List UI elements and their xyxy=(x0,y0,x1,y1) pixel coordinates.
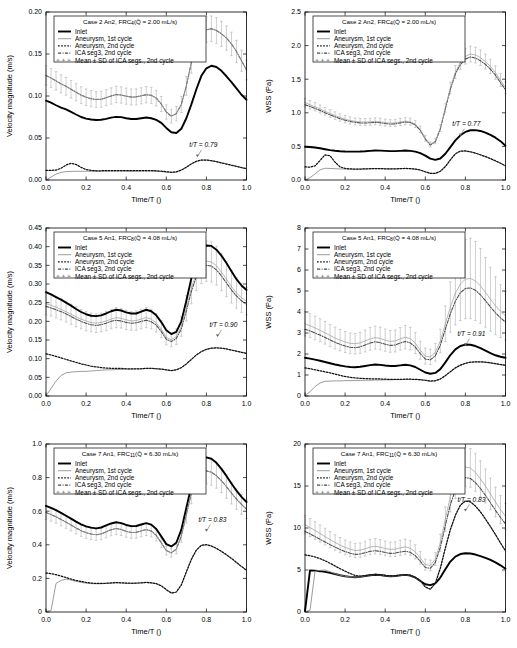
y-tick-label: 0.20 xyxy=(28,8,42,15)
y-tick-label: 0.8 xyxy=(32,474,42,481)
legend: Case 7 An1, FRC11(Q̄ = 6.30 mL/s)InletAn… xyxy=(54,448,206,497)
y-tick-label: 0.0 xyxy=(291,176,301,183)
legend-label: Mean ± SD of ICA segs., 2nd cycle xyxy=(75,489,174,497)
x-axis-title: Time/T () xyxy=(131,195,161,204)
legend-entry: Mean ± SD of ICA segs., 2nd cycle xyxy=(56,489,174,497)
y-tick-label: 0.05 xyxy=(28,374,42,381)
x-axis-title: Time/T () xyxy=(390,195,420,204)
x-tick-label: 0.6 xyxy=(420,184,430,191)
y-tick-label: 2.0 xyxy=(291,42,301,49)
x-tick-label: 0.8 xyxy=(202,400,212,407)
y-tick-label: 4 xyxy=(297,308,301,315)
y-tick-label: 5 xyxy=(297,287,301,294)
y-tick-label: 0.4 xyxy=(32,541,42,548)
y-tick-label: 0 xyxy=(297,608,301,615)
series-line xyxy=(305,151,506,180)
y-tick-label: 0.2 xyxy=(32,575,42,582)
y-tick-label: 0.15 xyxy=(28,336,42,343)
y-tick-label: 0.35 xyxy=(28,262,42,269)
legend-label: Inlet xyxy=(75,28,87,35)
x-tick-label: 0.6 xyxy=(420,400,430,407)
figure-container: 0.00.20.40.60.81.00.000.050.100.150.20Ti… xyxy=(0,0,517,648)
x-tick-label: 0.2 xyxy=(81,616,91,623)
x-tick-label: 0.0 xyxy=(300,400,310,407)
y-tick-label: 0.05 xyxy=(28,134,42,141)
annotation-label: t/T = 0.90 xyxy=(209,321,237,328)
x-tick-label: 1.0 xyxy=(242,616,252,623)
y-tick-label: 1.0 xyxy=(32,440,42,447)
x-tick-label: 0.8 xyxy=(460,184,470,191)
x-tick-label: 1.0 xyxy=(500,616,510,623)
series-line xyxy=(305,362,506,395)
chart-panel-panel-a: 0.00.20.40.60.81.00.000.050.100.150.20Ti… xyxy=(0,0,259,216)
legend-entry: Mean ± SD of ICA segs., 2nd cycle xyxy=(56,57,174,65)
y-tick-label: 1.5 xyxy=(291,76,301,83)
x-axis-title: Time/T () xyxy=(131,627,161,636)
legend-label: Inlet xyxy=(334,460,346,467)
y-tick-label: 2.5 xyxy=(291,8,301,15)
y-tick-label: 0.10 xyxy=(28,92,42,99)
y-tick-label: 2 xyxy=(297,350,301,357)
x-tick-label: 0.0 xyxy=(300,616,310,623)
y-tick-label: 0.5 xyxy=(291,143,301,150)
x-tick-label: 0.8 xyxy=(202,616,212,623)
y-tick-label: 8 xyxy=(297,224,301,231)
x-tick-label: 0.6 xyxy=(161,400,171,407)
legend-entry: Mean ± SD of ICA segs., 2nd cycle xyxy=(315,57,433,65)
legend-label: Inlet xyxy=(334,28,346,35)
legend-label: Inlet xyxy=(334,244,346,251)
legend-label: Inlet xyxy=(75,460,87,467)
legend: Case 2 An2, FRC4(Q̄ = 2.00 mL/s)InletAne… xyxy=(313,16,465,65)
x-tick-label: 0.2 xyxy=(81,184,91,191)
chart-panel-panel-f: 0.00.20.40.60.81.005101520Time/T ()WSS (… xyxy=(259,432,517,648)
chart-panel-panel-d: 0.00.20.40.60.81.0012345678Time/T ()WSS … xyxy=(259,216,517,432)
series-line xyxy=(46,545,247,593)
x-axis-title: Time/T () xyxy=(390,411,420,420)
annotation-label: t/T = 0.79 xyxy=(189,141,217,148)
chart-panel-panel-b: 0.00.20.40.60.81.00.00.51.01.52.02.5Time… xyxy=(259,0,517,216)
annotation-label: t/T = 0.83 xyxy=(198,516,226,523)
legend: Case 5 An1, FRC8(Q̄ = 4.08 mL/s)InletAne… xyxy=(313,232,465,281)
y-axis-title: WSS (Pa) xyxy=(264,511,273,545)
y-axis-title: WSS (Pa) xyxy=(264,79,273,113)
legend-entry: Mean ± SD of ICA segs., 2nd cycle xyxy=(56,273,174,281)
legend: Case 5 An1, FRC8(Q̄ = 4.08 mL/s)InletAne… xyxy=(54,232,206,281)
legend-entry: Mean ± SD of ICA segs., 2nd cycle xyxy=(315,489,433,497)
x-tick-label: 0.8 xyxy=(202,184,212,191)
legend-label: Mean ± SD of ICA segs., 2nd cycle xyxy=(75,57,174,65)
series-line xyxy=(305,151,506,173)
y-tick-label: 0.45 xyxy=(28,224,42,231)
annotation-label: t/T = 0.83 xyxy=(457,496,485,503)
legend-label: Mean ± SD of ICA segs., 2nd cycle xyxy=(334,489,433,497)
x-tick-label: 0.0 xyxy=(41,400,51,407)
x-tick-label: 0.8 xyxy=(460,616,470,623)
legend-label: Mean ± SD of ICA segs., 2nd cycle xyxy=(75,273,174,281)
x-tick-label: 0.2 xyxy=(340,400,350,407)
y-tick-label: 0 xyxy=(38,608,42,615)
legend: Case 2 An2, FRC4(Q̄ = 2.00 mL/s)InletAne… xyxy=(54,16,206,65)
annotation-label: t/T = 0.77 xyxy=(452,120,480,127)
series-line xyxy=(305,57,506,145)
y-axis-title: Velocity magnitude (m/s) xyxy=(5,54,14,137)
y-tick-label: 1 xyxy=(297,371,301,378)
x-tick-label: 0.4 xyxy=(380,184,390,191)
y-tick-label: 3 xyxy=(297,329,301,336)
series-line xyxy=(305,553,506,611)
x-tick-label: 0.4 xyxy=(121,184,131,191)
chart-panel-panel-c: 0.00.20.40.60.81.00.000.050.100.150.200.… xyxy=(0,216,259,432)
y-tick-label: 5 xyxy=(297,566,301,573)
y-tick-label: 0.10 xyxy=(28,355,42,362)
x-axis-title: Time/T () xyxy=(390,627,420,636)
y-tick-label: 0.40 xyxy=(28,243,42,250)
x-tick-label: 0.0 xyxy=(41,184,51,191)
x-tick-label: 1.0 xyxy=(242,184,252,191)
x-tick-label: 0.6 xyxy=(420,616,430,623)
x-tick-label: 1.0 xyxy=(500,184,510,191)
y-tick-label: 15 xyxy=(293,482,301,489)
x-tick-label: 0.4 xyxy=(121,400,131,407)
y-axis-title: Velocity magnitude (m/s) xyxy=(5,270,14,353)
x-axis-title: Time/T () xyxy=(131,411,161,420)
legend-label: Mean ± SD of ICA segs., 2nd cycle xyxy=(334,273,433,281)
y-tick-label: 0.30 xyxy=(28,280,42,287)
y-tick-label: 20 xyxy=(293,440,301,447)
